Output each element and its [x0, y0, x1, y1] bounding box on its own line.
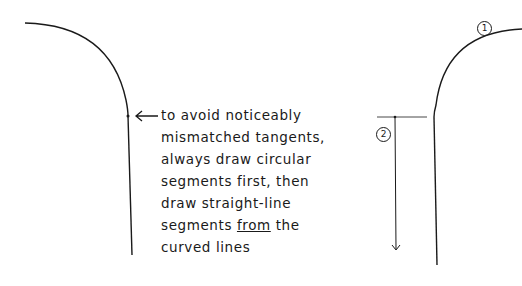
note-line: curved lines — [161, 239, 250, 255]
left-arc-segment — [25, 23, 128, 116]
note-line: always draw circular — [161, 151, 311, 167]
left-straight-segment — [128, 116, 132, 255]
tangent-point-dot — [127, 115, 130, 118]
note-line: to avoid noticeably — [161, 107, 302, 123]
right-arc-segment — [434, 29, 522, 117]
note-line: the — [271, 217, 300, 233]
step-1-label: 1 — [477, 21, 492, 36]
explanation-note: to avoid noticeably mismatched tangents,… — [161, 104, 325, 258]
note-line: segments first, then — [161, 173, 309, 189]
note-emphasis: from — [237, 217, 271, 233]
note-line: segments — [161, 217, 237, 233]
note-line: mismatched tangents, — [161, 129, 325, 145]
pointer-arrow-icon — [136, 111, 158, 121]
down-arrow-icon — [392, 117, 400, 250]
right-straight-segment — [434, 117, 437, 265]
step-2-label: 2 — [376, 127, 391, 142]
note-line: draw straight-line — [161, 195, 291, 211]
diagram-canvas: 1 2 to avoid noticeably mismatched tange… — [0, 0, 522, 286]
